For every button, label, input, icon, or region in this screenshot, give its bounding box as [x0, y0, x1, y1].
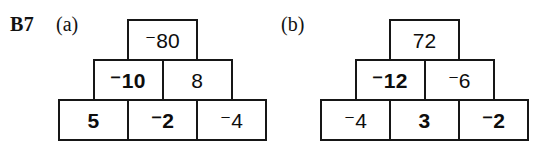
pyramid-a-cell-middle-1[interactable]: ⁻10: [93, 59, 164, 101]
pyramid-b-cell-bottom-2[interactable]: 3: [389, 99, 460, 141]
pyramid-b-cell-bottom-3-value: ⁻2: [482, 110, 505, 131]
pyramid-b-cell-top-1[interactable]: 72: [389, 19, 460, 61]
pyramid-a-top-row: ⁻80: [58, 19, 267, 61]
part-b-label: (b): [281, 14, 304, 34]
number-pyramid-a: ⁻80 ⁻10 8 5 ⁻2 ⁻4: [58, 19, 267, 141]
pyramid-b-cell-bottom-2-value: 3: [419, 110, 431, 131]
pyramid-b-cell-middle-2-value: ⁻6: [448, 70, 471, 91]
pyramid-b-middle-row: ⁻12 ⁻6: [320, 59, 529, 101]
pyramid-a-cell-bottom-3[interactable]: ⁻4: [196, 99, 267, 141]
pyramid-a-cell-top-1-value: ⁻80: [145, 30, 179, 51]
pyramid-a-bottom-row: 5 ⁻2 ⁻4: [58, 99, 267, 141]
pyramid-b-cell-top-1-value: 72: [413, 30, 436, 51]
pyramid-a-cell-top-1[interactable]: ⁻80: [127, 19, 198, 61]
pyramid-a-cell-bottom-2[interactable]: ⁻2: [127, 99, 198, 141]
pyramid-a-cell-bottom-3-value: ⁻4: [220, 110, 243, 131]
number-pyramid-b: 72 ⁻12 ⁻6 ⁻4 3 ⁻2: [320, 19, 529, 141]
question-number-label: B7: [10, 14, 34, 34]
pyramid-a-cell-bottom-1[interactable]: 5: [58, 99, 129, 141]
pyramid-b-cell-middle-2[interactable]: ⁻6: [424, 59, 495, 101]
pyramid-a-cell-middle-1-value: ⁻10: [110, 70, 145, 91]
pyramid-b-cell-middle-1-value: ⁻12: [372, 70, 407, 91]
pyramid-a-cell-middle-2-value: 8: [191, 70, 203, 91]
pyramid-a-cell-middle-2[interactable]: 8: [162, 59, 233, 101]
pyramid-b-cell-bottom-1[interactable]: ⁻4: [320, 99, 391, 141]
pyramid-a-middle-row: ⁻10 8: [58, 59, 267, 101]
pyramid-b-cell-bottom-3[interactable]: ⁻2: [458, 99, 529, 141]
pyramid-a-cell-bottom-1-value: 5: [88, 110, 100, 131]
pyramid-b-top-row: 72: [320, 19, 529, 61]
pyramid-b-cell-middle-1[interactable]: ⁻12: [355, 59, 426, 101]
pyramid-a-cell-bottom-2-value: ⁻2: [151, 110, 174, 131]
pyramid-b-bottom-row: ⁻4 3 ⁻2: [320, 99, 529, 141]
pyramid-b-cell-bottom-1-value: ⁻4: [344, 110, 367, 131]
worksheet-figure: B7 (a) (b) ⁻80 ⁻10 8 5 ⁻2 ⁻4: [0, 0, 548, 160]
